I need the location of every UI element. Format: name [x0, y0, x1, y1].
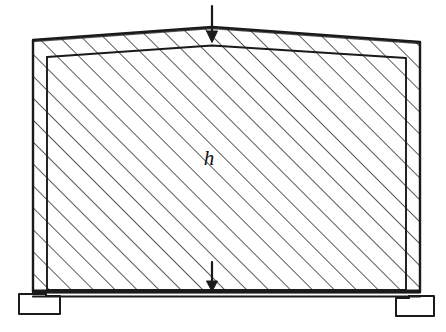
drawing-canvas: h — [0, 0, 446, 332]
height-label-h: h — [204, 146, 215, 170]
hatched-body-region — [20, 15, 440, 305]
base-band — [33, 291, 420, 297]
cross-section-figure: h — [0, 0, 446, 332]
